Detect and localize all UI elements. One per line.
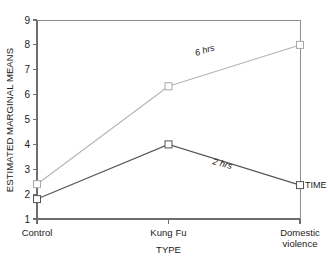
y-tick-label: 7 — [24, 64, 30, 75]
x-tick-label-kungfu: KungFu — [150, 227, 186, 238]
data-point-marker — [297, 182, 304, 189]
y-tick-1: 1 — [24, 214, 37, 225]
legend-title: TIME — [305, 180, 327, 190]
data-point-marker — [34, 196, 41, 203]
chart-container: 9 8 7 6 5 4 3 — [0, 0, 328, 264]
y-tick-9: 9 — [24, 15, 37, 26]
data-point-marker — [34, 181, 41, 188]
y-axis-title: ESTIMATED MARGINAL MEANS — [4, 48, 15, 192]
y-tick-label: 6 — [24, 89, 30, 100]
y-tick-4: 4 — [24, 139, 37, 150]
series-2hrs: 2 hrs — [34, 141, 304, 203]
data-point-marker — [297, 41, 304, 48]
x-tick-label-control: Control — [22, 227, 53, 238]
y-tick-label: 2 — [24, 189, 30, 200]
y-tick-6: 6 — [24, 89, 37, 100]
series-label-6hrs: 6 hrs — [194, 42, 217, 58]
series-label-2hrs: 2 hrs — [211, 156, 234, 171]
y-axis: 9 8 7 6 5 4 3 — [4, 15, 37, 225]
data-point-marker — [165, 83, 172, 90]
y-tick-label: 5 — [24, 114, 30, 125]
line-chart: 9 8 7 6 5 4 3 — [0, 0, 328, 264]
y-tick-7: 7 — [24, 64, 37, 75]
x-axis-title: TYPE — [156, 244, 181, 255]
x-tick-label-domestic-line1: Domestic — [280, 227, 320, 238]
y-tick-3: 3 — [24, 164, 37, 175]
x-tick-label-domestic-line2: violence — [283, 238, 318, 249]
y-tick-label: 1 — [24, 214, 30, 225]
data-point-marker — [165, 141, 172, 148]
y-tick-label: 9 — [24, 15, 30, 26]
x-axis: Control KungFu Domestic violence TYPE — [22, 219, 320, 255]
series-6hrs: 6 hrs — [34, 41, 304, 187]
y-tick-label: 8 — [24, 39, 30, 50]
y-tick-8: 8 — [24, 39, 37, 50]
plot-frame — [37, 20, 300, 219]
y-tick-5: 5 — [24, 114, 37, 125]
y-tick-label: 3 — [24, 164, 30, 175]
y-tick-label: 4 — [24, 139, 30, 150]
